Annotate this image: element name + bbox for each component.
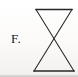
bowtie-diagonal-left-to-right — [36, 10, 74, 72]
bowtie-icon — [31, 5, 77, 75]
bowtie-diagonal-right-to-left — [34, 10, 72, 72]
figure-label: F. — [11, 32, 21, 45]
figure-panel: F. — [0, 0, 78, 77]
bowtie-svg — [31, 5, 77, 75]
